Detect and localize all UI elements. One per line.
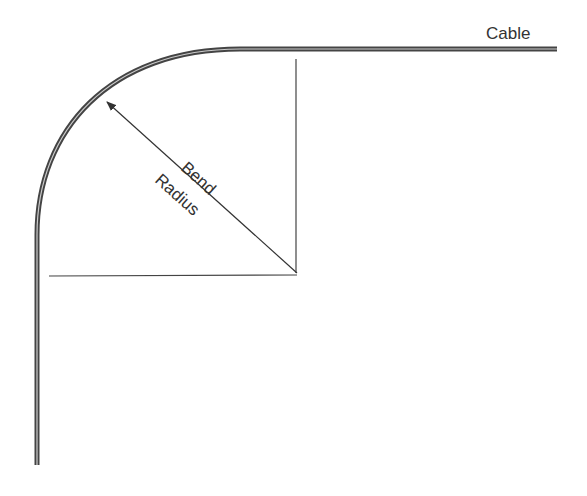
bend-radius-diagram: Cable Bend Radius xyxy=(0,0,587,496)
cable-label: Cable xyxy=(486,24,530,44)
horizontal-reference-line xyxy=(49,275,297,276)
cable xyxy=(37,49,557,465)
diagram-graphic xyxy=(0,0,587,496)
